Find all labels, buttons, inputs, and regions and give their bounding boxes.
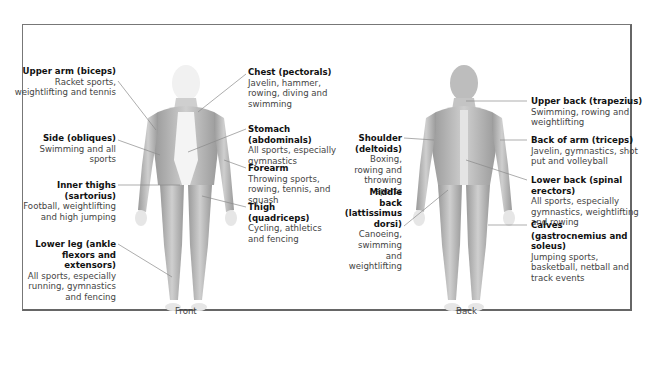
label-abdominals: Stomach (abdominals) All sports, especia… [248,124,348,166]
label-biceps: Upper arm (biceps) Racket sports, weight… [12,66,116,98]
label-forearm: Forearm Throwing sports, rowing, tennis,… [248,163,338,205]
label-triceps: Back of arm (triceps) Javelin, gymnastic… [531,135,639,167]
label-sartorius: Inner thighs (sartorius) Football, weigh… [12,180,116,222]
label-obliques: Side (obliques) Swimming and all sports [12,133,116,165]
label-calves: Calves (gastrocnemius and soleus) Jumpin… [531,220,639,284]
label-pectorals: Chest (pectorals) Javelin, hammer, rowin… [248,67,338,109]
label-ankle-flexors: Lower leg (ankle flexors and extensors) … [12,239,116,303]
label-trapezius: Upper back (trapezius) Swimming, rowing … [531,96,649,128]
caption-back: Back [456,306,477,316]
front-body-figure [135,65,237,311]
label-quadriceps: Thigh (quadriceps) Cycling, athletics an… [248,202,338,244]
caption-front: Front [175,306,197,316]
back-body-figure [413,65,515,311]
label-latissimus: Middle back (lattissimus dorsi) Canoeing… [344,187,402,272]
